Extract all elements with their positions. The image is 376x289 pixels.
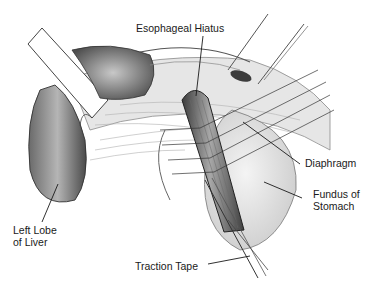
label-left-lobe-line2: of Liver	[13, 236, 47, 248]
anatomy-illustration	[0, 0, 376, 289]
label-fundus-line2: Stomach	[313, 200, 354, 212]
label-fundus-line1: Fundus of	[313, 188, 360, 200]
label-traction-tape: Traction Tape	[135, 260, 198, 272]
label-diaphragm: Diaphragm	[305, 157, 356, 169]
stomach-curve	[159, 130, 170, 200]
label-esophageal-hiatus: Esophageal Hiatus	[136, 22, 224, 34]
figure-canvas: Esophageal Hiatus Diaphragm Fundus of St…	[0, 0, 376, 289]
label-left-lobe-line1: Left Lobe	[13, 224, 57, 236]
